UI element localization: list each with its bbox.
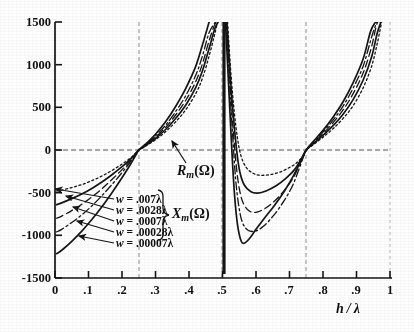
x-axis-title-lambda: λ — [354, 301, 360, 316]
x-tick-4: .4 — [177, 283, 201, 298]
x-tick-6: .6 — [244, 283, 268, 298]
resistance-label: Rm(Ω) — [177, 163, 215, 180]
y-tick-1500: 1500 — [6, 15, 51, 30]
resistance-symbol: R — [177, 163, 186, 178]
x-tick-2: .2 — [110, 283, 134, 298]
x-tick-1: .1 — [76, 283, 100, 298]
y-tick-m500: -500 — [2, 186, 51, 201]
x-axis-title-h: h — [336, 301, 344, 316]
legend-value-4: .00007λ — [136, 237, 173, 249]
x-tick-8: .8 — [311, 283, 335, 298]
reactance-symbol: X — [172, 206, 181, 221]
reactance-subscript: m — [181, 212, 189, 223]
x-axis-title-slash: / — [344, 301, 354, 316]
legend-var-4: w — [116, 237, 124, 249]
x-tick-7: .7 — [277, 283, 301, 298]
legend-eq-4: = — [127, 237, 134, 249]
y-tick-1000: 1000 — [6, 58, 51, 73]
resistance-unit: (Ω) — [194, 163, 215, 178]
x-tick-3: .3 — [143, 283, 167, 298]
x-tick-0: 0 — [43, 283, 67, 298]
x-tick-10: 1 — [378, 283, 402, 298]
resistance-subscript: m — [186, 169, 194, 180]
x-axis-title: h/λ — [336, 301, 360, 317]
legend-row-4: w = .00007λ — [116, 237, 173, 249]
y-tick-m1000: -1000 — [2, 228, 51, 243]
x-tick-5: .5 — [210, 283, 234, 298]
x-tick-9: .9 — [344, 283, 368, 298]
reactance-label: Xm(Ω) — [172, 206, 210, 223]
y-tick-500: 500 — [6, 100, 51, 115]
reactance-unit: (Ω) — [189, 206, 210, 221]
y-tick-0: 0 — [6, 143, 51, 158]
